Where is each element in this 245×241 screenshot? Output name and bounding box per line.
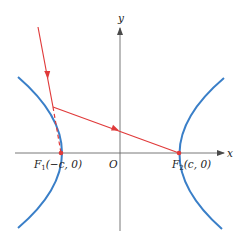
reflected-ray bbox=[53, 107, 179, 153]
origin-label: O bbox=[109, 158, 118, 170]
x-axis-label: x bbox=[227, 147, 233, 159]
y-axis-label: y bbox=[117, 12, 125, 24]
focus-f1-label: F1(−c, 0) bbox=[33, 158, 82, 172]
reflected-ray-arrow-icon bbox=[111, 125, 119, 131]
hyperbola-left-branch bbox=[18, 77, 62, 228]
focus-f2-label: F2(c, 0) bbox=[171, 158, 211, 172]
dashed-extension-line bbox=[53, 107, 61, 153]
focus-f2-point bbox=[177, 151, 182, 156]
hyperbola-right-branch bbox=[179, 78, 224, 229]
hyperbola-reflection-diagram: y x O F1(−c, 0) F2(c, 0) bbox=[0, 0, 245, 241]
incoming-ray bbox=[38, 27, 53, 107]
focus-f2-coords: (c, 0) bbox=[184, 158, 211, 170]
focus-f1-coords: (−c, 0) bbox=[46, 158, 82, 170]
focus-f1-point bbox=[59, 151, 64, 156]
